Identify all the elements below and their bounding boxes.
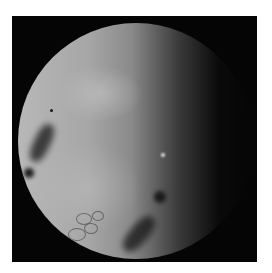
dark-spot-center-right — [154, 191, 166, 203]
endoscopic-field — [18, 23, 254, 259]
image-frame — [12, 16, 257, 262]
bright-speck — [161, 153, 165, 157]
dark-lesion-left — [26, 121, 57, 164]
vessel-pattern-2 — [84, 223, 98, 234]
vessel-pattern-3 — [68, 228, 86, 241]
small-dark-dot — [50, 109, 53, 112]
dark-spot-left-edge — [24, 168, 34, 178]
vessel-pattern-4 — [92, 211, 104, 221]
dark-lesion-lower-right — [119, 212, 160, 256]
